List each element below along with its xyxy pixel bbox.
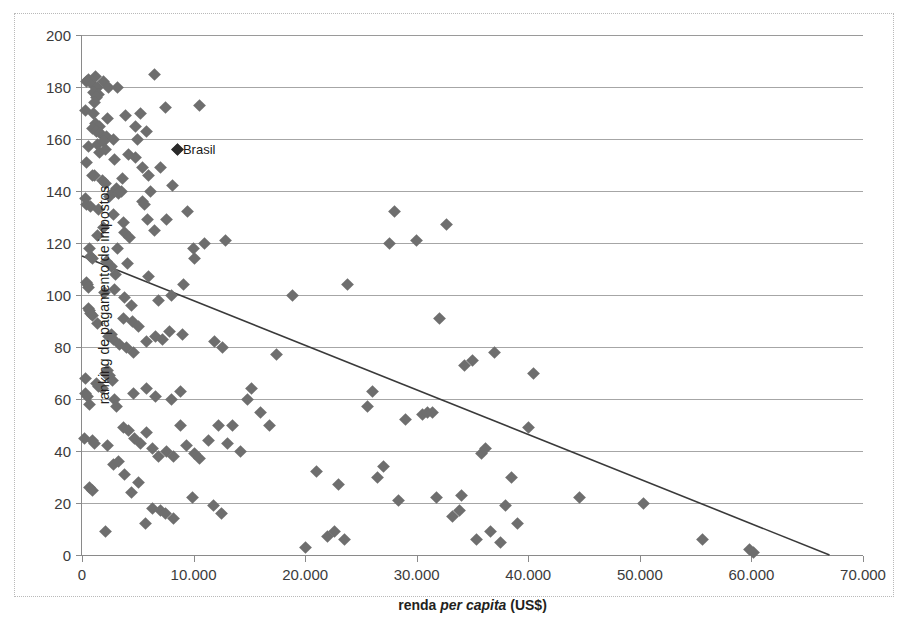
y-tick-label: 40	[54, 443, 71, 460]
x-tick-label: 50.000	[617, 566, 663, 583]
trendline	[82, 35, 863, 555]
x-tick-label: 10.000	[171, 566, 217, 583]
x-axis-title-prefix: renda	[398, 597, 440, 613]
chart-figure: 020406080100120140160180200 010.00020.00…	[0, 0, 910, 636]
y-tick-label: 140	[46, 183, 71, 200]
x-axis-title-italic: per capita	[440, 597, 506, 613]
y-tick-label: 100	[46, 287, 71, 304]
y-tick-label: 200	[46, 27, 71, 44]
y-axis-title: ranking de pagamento de impostos	[96, 186, 112, 405]
y-tick-label: 0	[63, 547, 71, 564]
x-axis-line	[82, 555, 863, 556]
x-tick-mark	[528, 556, 529, 562]
x-axis-title: renda per capita (US$)	[82, 597, 863, 613]
y-tick-label: 80	[54, 339, 71, 356]
x-tick-label: 40.000	[505, 566, 551, 583]
plot-area: 020406080100120140160180200 010.00020.00…	[82, 35, 863, 555]
x-tick-label: 30.000	[394, 566, 440, 583]
x-tick-label: 0	[78, 566, 86, 583]
y-tick-label: 160	[46, 131, 71, 148]
y-tick-label: 60	[54, 391, 71, 408]
y-tick-label: 180	[46, 79, 71, 96]
x-tick-mark	[417, 556, 418, 562]
y-tick-label: 20	[54, 495, 71, 512]
x-axis-title-suffix: (US$)	[506, 597, 546, 613]
x-tick-label: 20.000	[282, 566, 328, 583]
point-label-brasil: Brasil	[183, 142, 216, 157]
x-tick-mark	[640, 556, 641, 562]
x-tick-label: 70.000	[840, 566, 886, 583]
x-tick-mark	[194, 556, 195, 562]
x-tick-mark	[305, 556, 306, 562]
y-axis-title-wrapper: ranking de pagamento de impostos	[108, 35, 109, 555]
x-tick-mark	[863, 556, 864, 562]
x-tick-label: 60.000	[728, 566, 774, 583]
y-tick-label: 120	[46, 235, 71, 252]
chart-title	[0, 0, 910, 11]
x-tick-mark	[82, 556, 83, 562]
